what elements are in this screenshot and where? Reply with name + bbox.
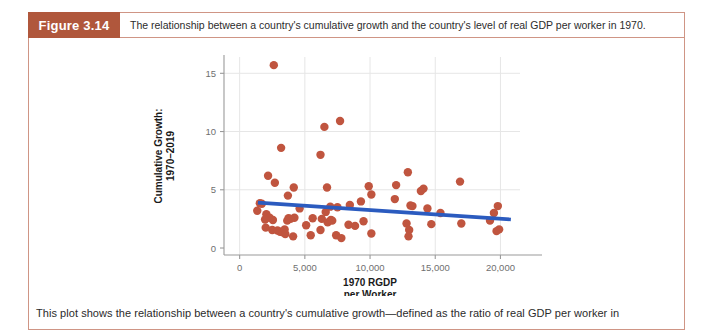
scatter-point	[456, 177, 464, 185]
scatter-point	[316, 226, 324, 234]
scatter-point	[367, 190, 375, 198]
x-tick-label: 0	[237, 262, 242, 273]
figure-bottom-note: This plot shows the relationship between…	[36, 306, 678, 322]
y-tick-label: 10	[205, 126, 216, 137]
y-axis-title: Cumulative Growth:	[153, 108, 164, 203]
scatter-point	[307, 231, 315, 239]
scatter-point	[277, 144, 285, 152]
scatter-point	[392, 181, 400, 189]
x-tick-label: 15,000	[421, 262, 450, 273]
scatter-point	[417, 187, 425, 195]
x-tick-label: 5,000	[293, 262, 317, 273]
scatter-plot-svg: 05101505,00010,00015,00020,0001970 RGDPp…	[28, 38, 685, 296]
scatter-point	[492, 227, 500, 235]
x-axis-title: 1970 RGDP	[343, 277, 397, 288]
scatter-point	[365, 182, 373, 190]
scatter-point	[308, 214, 316, 222]
scatter-point	[290, 183, 298, 191]
figure-header-caption: The relationship between a country's cum…	[120, 12, 685, 38]
scatter-point	[367, 229, 375, 237]
scatter-point	[404, 168, 412, 176]
chart-plot-area: 05101505,00010,00015,00020,0001970 RGDPp…	[28, 38, 685, 296]
x-tick-label: 20,000	[486, 262, 515, 273]
scatter-point	[320, 123, 328, 131]
y-tick-label: 15	[205, 68, 216, 79]
scatter-point	[328, 216, 336, 224]
figure-header: Figure 3.14 The relationship between a c…	[28, 12, 685, 38]
scatter-point	[253, 207, 261, 215]
scatter-point	[357, 197, 365, 205]
scatter-point	[408, 202, 416, 210]
scatter-point	[271, 179, 279, 187]
y-tick-label: 5	[211, 184, 216, 195]
scatter-point	[427, 220, 435, 228]
scatter-point	[391, 195, 399, 203]
scatter-point	[494, 202, 502, 210]
scatter-point	[302, 221, 310, 229]
scatter-point	[336, 117, 344, 125]
scatter-point	[270, 61, 278, 69]
y-axis-title: 1970–2019	[165, 131, 176, 181]
scatter-point	[351, 222, 359, 230]
scatter-point	[284, 191, 292, 199]
scatter-point	[264, 172, 272, 180]
scatter-point	[457, 219, 465, 227]
scatter-point	[289, 232, 297, 240]
scatter-point	[283, 216, 291, 224]
scatter-point	[359, 217, 367, 225]
scatter-point	[404, 232, 412, 240]
scatter-point	[261, 215, 269, 223]
scatter-point	[337, 234, 345, 242]
scatter-point	[423, 204, 431, 212]
scatter-point	[269, 216, 277, 224]
x-axis-title: per Worker	[344, 289, 397, 296]
scatter-point	[323, 183, 331, 191]
figure-number-badge: Figure 3.14	[28, 12, 120, 38]
x-tick-label: 10,000	[356, 262, 385, 273]
scatter-point	[316, 151, 324, 159]
y-tick-label: 0	[211, 243, 216, 254]
figure-container: Figure 3.14 The relationship between a c…	[0, 0, 710, 330]
scatter-point	[281, 230, 289, 238]
